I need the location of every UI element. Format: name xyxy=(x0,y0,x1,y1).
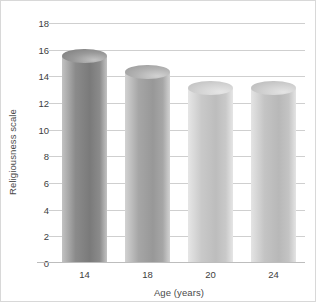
y-axis-label: Religiousness scale xyxy=(1,1,23,302)
y-tick-label: 6 xyxy=(25,178,49,189)
bar-body xyxy=(251,88,295,263)
x-axis-label: Age (years) xyxy=(53,287,305,298)
y-tick-label: 16 xyxy=(25,44,49,55)
bar-slot xyxy=(251,23,295,263)
y-tick-label: 8 xyxy=(25,151,49,162)
bar-body xyxy=(188,88,232,263)
y-tick-label: 18 xyxy=(25,18,49,29)
bar-slot xyxy=(188,23,232,263)
y-tick-label: 2 xyxy=(25,231,49,242)
y-tick-label: 14 xyxy=(25,71,49,82)
x-tick-label: 14 xyxy=(79,269,90,280)
x-axis-ticks: 14182024 xyxy=(53,269,305,285)
bar[interactable] xyxy=(125,65,169,263)
bar-slot xyxy=(62,23,106,263)
x-tick-label: 24 xyxy=(268,269,279,280)
x-axis-line xyxy=(37,262,305,263)
x-tick-label: 20 xyxy=(205,269,216,280)
bar[interactable] xyxy=(188,81,232,263)
y-tick-label: 12 xyxy=(25,98,49,109)
y-tick-label: 10 xyxy=(25,124,49,135)
bar[interactable] xyxy=(251,81,295,263)
bar-slot xyxy=(125,23,169,263)
x-tick-label: 18 xyxy=(142,269,153,280)
bar-series xyxy=(53,23,305,263)
y-tick-label: 4 xyxy=(25,204,49,215)
y-tick-label: 0 xyxy=(25,258,49,269)
bar-body xyxy=(125,72,169,263)
plot-area xyxy=(53,23,305,263)
y-axis-ticks: 181614121086420 xyxy=(25,1,49,302)
chart-figure: Religiousness scale 181614121086420 1418… xyxy=(0,0,316,302)
bar[interactable] xyxy=(62,49,106,263)
bar-body xyxy=(62,56,106,263)
